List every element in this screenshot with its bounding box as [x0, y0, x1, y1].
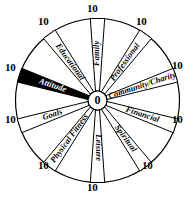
wheel-of-life-diagram: FamilyProfessionalCommunity/CharityFinan…	[0, 0, 195, 201]
tick-label-upper-left: 10	[38, 16, 48, 27]
segment-label-group: Leisure	[94, 133, 103, 161]
tick-label-left-lower: 10	[5, 114, 15, 125]
center-zero-label: 0	[95, 93, 101, 107]
tick-label-left-upper: 10	[5, 62, 15, 73]
tick-label-top: 10	[87, 3, 97, 14]
tick-label-right-lower: 10	[172, 114, 182, 125]
segment-label: Family	[92, 40, 101, 66]
segment-label: Leisure	[94, 133, 103, 161]
wheel-graphic: FamilyProfessionalCommunity/CharityFinan…	[0, 0, 195, 201]
tick-label-lower-left: 10	[38, 160, 48, 171]
segment-label-group: Family	[92, 40, 101, 66]
tick-label-upper-right: 10	[136, 16, 146, 27]
tick-label-bottom: 10	[87, 182, 97, 193]
tick-label-right-upper: 10	[172, 60, 182, 71]
tick-label-lower-right: 10	[142, 160, 152, 171]
